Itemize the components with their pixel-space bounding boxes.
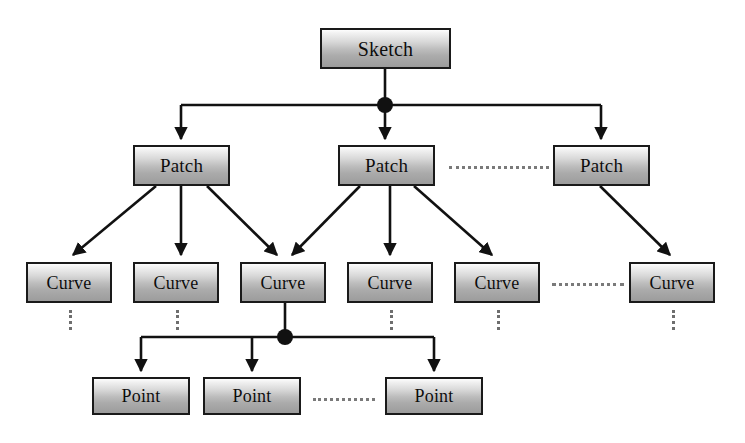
node-curve-1[interactable]: Curve xyxy=(26,262,112,303)
node-curve-5[interactable]: Curve xyxy=(454,262,540,303)
curve-6-ellipsis-down xyxy=(672,310,675,330)
node-label: Curve xyxy=(154,274,199,292)
node-label: Curve xyxy=(650,274,695,292)
sketch-junction-dot xyxy=(377,97,393,113)
curve-junction-dot xyxy=(277,329,293,345)
node-curve-4[interactable]: Curve xyxy=(347,262,433,303)
node-label: Patch xyxy=(160,156,203,175)
curve-2-ellipsis-down xyxy=(176,310,179,330)
node-patch-1[interactable]: Patch xyxy=(133,145,230,186)
node-label: Patch xyxy=(365,156,408,175)
node-point-1[interactable]: Point xyxy=(92,377,190,415)
node-label: Curve xyxy=(47,274,92,292)
node-patch-3[interactable]: Patch xyxy=(553,145,650,186)
node-label: Curve xyxy=(261,274,306,292)
curve-1-ellipsis-down xyxy=(69,310,72,330)
patch-ellipsis xyxy=(449,166,549,169)
curve-5-ellipsis-down xyxy=(497,310,500,330)
node-label: Point xyxy=(232,387,271,405)
node-curve-2[interactable]: Curve xyxy=(133,262,219,303)
edge-patch2-to-curve5 xyxy=(414,186,492,255)
node-curve-3[interactable]: Curve xyxy=(240,262,326,303)
node-point-3[interactable]: Point xyxy=(385,377,483,415)
point-ellipsis xyxy=(313,398,375,401)
node-label: Point xyxy=(414,387,453,405)
node-patch-2[interactable]: Patch xyxy=(338,145,435,186)
node-label: Curve xyxy=(475,274,520,292)
edge-patch2-to-curve3 xyxy=(292,186,360,255)
node-label: Sketch xyxy=(358,39,414,59)
edge-patch3-to-curve6 xyxy=(600,186,670,255)
node-sketch[interactable]: Sketch xyxy=(320,28,451,69)
node-point-2[interactable]: Point xyxy=(203,377,301,415)
hierarchy-diagram: Sketch Patch Patch Patch Curve Curve Cur… xyxy=(0,0,745,443)
curve-4-ellipsis-down xyxy=(390,310,393,330)
node-curve-6[interactable]: Curve xyxy=(629,262,715,303)
node-label: Curve xyxy=(368,274,413,292)
node-label: Patch xyxy=(580,156,623,175)
node-label: Point xyxy=(121,387,160,405)
edge-patch1-to-curve1 xyxy=(73,186,156,255)
curve-ellipsis xyxy=(552,283,624,286)
edge-patch1-to-curve3 xyxy=(207,186,277,255)
